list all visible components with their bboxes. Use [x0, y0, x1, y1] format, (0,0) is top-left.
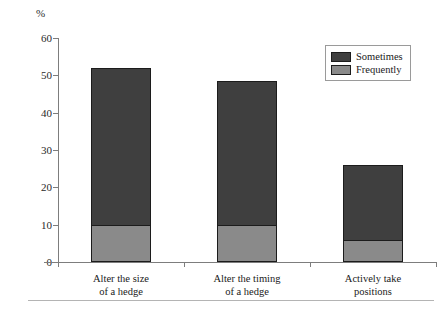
x-axis-tick-mark	[436, 262, 437, 267]
y-axis-tick-label: 50	[20, 70, 52, 81]
bar-segment-frequently[interactable]	[217, 225, 277, 262]
bar-segment-sometimes[interactable]	[217, 81, 277, 225]
legend-item-label: Frequently	[356, 64, 402, 75]
y-axis-tick-label: 30	[20, 145, 52, 156]
y-axis-tick-label-text: 10	[20, 220, 52, 231]
x-axis-tick-mark	[58, 262, 59, 267]
category-label-line1: Alter the timing	[213, 273, 280, 284]
category-label: Alter the timingof a hedge	[184, 272, 310, 298]
bar-segment-sometimes[interactable]	[91, 68, 151, 225]
x-axis-tick-mark	[184, 262, 185, 267]
category-label-line2: of a hedge	[58, 285, 184, 298]
legend-color-swatch	[331, 65, 351, 75]
y-axis-tick-label: 60	[20, 33, 52, 44]
category-label-line1: Actively take	[345, 273, 401, 284]
bar-stack	[217, 81, 277, 262]
legend-item[interactable]: Sometimes	[331, 50, 403, 63]
y-axis-tick-label: 40	[20, 108, 52, 119]
bar-column[interactable]	[91, 38, 151, 262]
y-axis-tick-label-text: 40	[20, 108, 52, 119]
legend-color-swatch	[331, 52, 351, 62]
y-axis-tick-label: 10	[20, 220, 52, 231]
x-axis-line	[44, 262, 436, 263]
category-label-line1: Alter the size	[93, 273, 149, 284]
x-axis-tick-mark	[310, 262, 311, 267]
bar-segment-frequently[interactable]	[343, 240, 403, 262]
y-axis-tick-label-text: 60	[20, 33, 52, 44]
bar-column[interactable]	[217, 38, 277, 262]
footer-divider	[28, 300, 434, 301]
y-axis-tick-label-text: 30	[20, 145, 52, 156]
y-axis-unit-label: %	[36, 8, 45, 19]
category-label-line2: positions	[310, 285, 436, 298]
bar-segment-sometimes[interactable]	[343, 165, 403, 240]
y-axis-tick-label-text: 50	[20, 70, 52, 81]
category-label-line2: of a hedge	[184, 285, 310, 298]
bar-segment-frequently[interactable]	[91, 225, 151, 262]
legend-item[interactable]: Frequently	[331, 63, 403, 76]
stacked-bar-chart-figure: % 0102030405060 Alter the sizeof a hedge…	[0, 0, 448, 310]
legend-item-label: Sometimes	[356, 51, 403, 62]
y-axis-tick-label: 20	[20, 182, 52, 193]
category-label: Alter the sizeof a hedge	[58, 272, 184, 298]
y-axis-tick-label-text: 20	[20, 182, 52, 193]
bar-stack	[91, 68, 151, 262]
chart-legend: SometimesFrequently	[325, 45, 411, 81]
bar-stack	[343, 165, 403, 262]
category-label: Actively takepositions	[310, 272, 436, 298]
